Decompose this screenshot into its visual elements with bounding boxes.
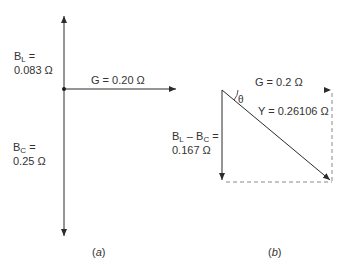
b-diff-equals: =	[209, 130, 218, 142]
caption-a: (a)	[92, 246, 105, 258]
bc-equals: =	[26, 141, 35, 153]
b-diff-label: BL – BC =	[172, 130, 219, 143]
b-diff-minus: –	[184, 130, 196, 142]
bl-equals: =	[26, 50, 35, 62]
panel-a	[62, 16, 176, 236]
bl-value: 0.083 Ω	[14, 64, 53, 77]
theta-label: θ	[238, 93, 244, 106]
caption-b: (b)	[268, 246, 281, 258]
bl-label: BL =	[14, 50, 35, 63]
g-label-a: G = 0.20 Ω	[91, 74, 145, 87]
origin-dot	[62, 87, 66, 91]
b-diff-value: 0.167 Ω	[172, 144, 211, 157]
bc-value: 0.25 Ω	[13, 155, 46, 168]
g-label-b: G = 0.2 Ω	[255, 76, 303, 89]
y-label: Y = 0.26106 Ω	[258, 105, 329, 118]
bc-label: BC =	[13, 141, 36, 154]
